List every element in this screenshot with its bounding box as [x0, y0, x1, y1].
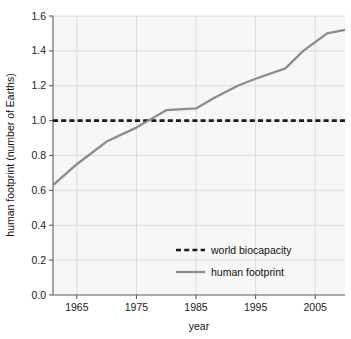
y-tick-label: 1.6: [31, 10, 46, 22]
y-axis-title: human footprint (number of Earths): [4, 73, 16, 236]
y-tick-label: 0.0: [31, 289, 46, 301]
legend-label-human-footprint: human footprint: [211, 266, 284, 278]
y-tick-label: 0.4: [31, 219, 46, 231]
x-tick-label: 1995: [244, 301, 268, 313]
x-tick-label: 1975: [125, 301, 149, 313]
x-tick-label: 1965: [65, 301, 89, 313]
x-tick-label: 1985: [184, 301, 208, 313]
chart-figure: 0.00.20.40.60.81.01.21.41.6 196519751985…: [0, 0, 351, 339]
y-tick-label: 1.0: [31, 114, 46, 126]
y-tick-label: 1.2: [31, 79, 46, 91]
y-tick-label: 0.6: [31, 184, 46, 196]
y-tick-label: 0.2: [31, 254, 46, 266]
y-tick-label: 0.8: [31, 149, 46, 161]
x-axis-title: year: [189, 320, 210, 332]
y-tick-label: 1.4: [31, 44, 46, 56]
x-tick-label: 2005: [304, 301, 328, 313]
line-chart: 0.00.20.40.60.81.01.21.41.6 196519751985…: [0, 0, 351, 339]
legend-label-world-biocapacity: world biocapacity: [210, 244, 292, 256]
